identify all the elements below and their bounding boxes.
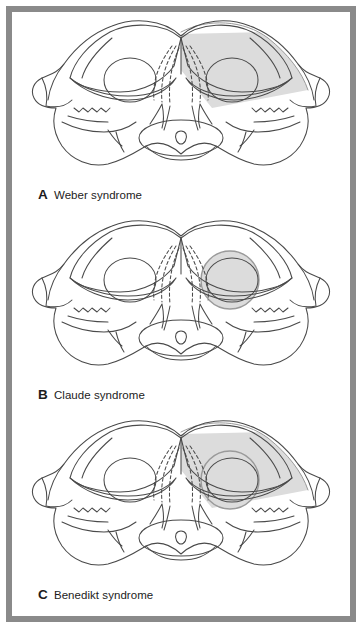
figure-page: A Weber syndrome [0, 0, 364, 636]
midbrain-section-c [12, 412, 350, 580]
caption-c: C Benedikt syndrome [38, 587, 153, 602]
caption-a: A Weber syndrome [38, 187, 142, 202]
figure-frame: A Weber syndrome [6, 6, 356, 622]
panel-title-b: Claude syndrome [54, 389, 145, 401]
panel-a: A Weber syndrome [12, 12, 350, 208]
panel-title-a: Weber syndrome [54, 189, 142, 201]
panel-letter-b: B [38, 387, 48, 402]
midbrain-section-a [12, 12, 350, 180]
panel-letter-c: C [38, 587, 48, 602]
figure-canvas: A Weber syndrome [12, 12, 350, 616]
caption-b: B Claude syndrome [38, 387, 145, 402]
panel-title-c: Benedikt syndrome [54, 589, 153, 601]
panel-c: C Benedikt syndrome [12, 412, 350, 608]
midbrain-section-b [12, 212, 350, 380]
panel-b: B Claude syndrome [12, 212, 350, 408]
panel-letter-a: A [38, 187, 48, 202]
